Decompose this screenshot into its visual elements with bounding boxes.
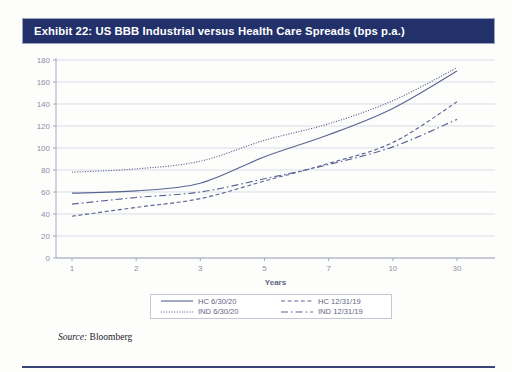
exhibit-page: Exhibit 22: US BBB Industrial versus Hea… [0,0,512,372]
series-line-hc-6-30-20 [72,71,457,193]
series-lines [72,68,457,217]
y-axis-tick-labels: 020406080100120140160180 [37,56,51,263]
line-solid-icon [161,297,193,305]
exhibit-title-bar: Exhibit 22: US BBB Industrial versus Hea… [22,18,495,44]
legend-item[interactable]: HC 6/30/20 [151,297,271,306]
source-label: Source: [58,332,87,342]
y-tick-label: 20 [41,232,50,241]
legend-item[interactable]: HC 12/31/19 [271,297,391,306]
x-axis-tick-labels: 123571030 [70,264,462,273]
legend-label: HC 12/31/19 [318,297,361,306]
series-line-hc-12-31-19 [72,102,457,216]
y-tick-label: 80 [41,166,50,175]
x-tick-label: 10 [388,264,397,273]
x-tick-label: 5 [262,264,267,273]
source-note: Source: Bloomberg [58,332,132,342]
y-tick-label: 180 [37,56,51,65]
line-chart: 020406080100120140160180 123571030 Years [22,50,495,290]
legend-item[interactable]: IND 6/30/20 [151,307,271,316]
chart-legend: HC 6/30/20HC 12/31/19IND 6/30/20IND 12/3… [150,294,392,319]
source-value: Bloomberg [90,332,133,342]
legend-label: IND 6/30/20 [198,307,239,316]
y-tick-label: 0 [46,254,51,263]
line-dashdot-icon [281,308,313,316]
line-dashed-icon [281,297,313,305]
x-axis-title: Years [265,278,287,287]
x-tick-label: 7 [326,264,331,273]
legend-item[interactable]: IND 12/31/19 [271,307,391,316]
x-tick-label: 3 [198,264,203,273]
footer-divider [22,366,495,368]
x-tick-label: 1 [70,264,75,273]
x-tick-label: 30 [453,264,462,273]
page-title: Exhibit 22: US BBB Industrial versus Hea… [23,25,405,37]
y-tick-label: 60 [41,188,50,197]
y-tick-label: 120 [37,122,51,131]
y-tick-label: 160 [37,78,51,87]
legend-label: IND 12/31/19 [318,307,363,316]
chart-plot-area: 020406080100120140160180 123571030 Years [22,50,495,290]
y-tick-label: 40 [41,210,50,219]
y-tick-label: 140 [37,100,51,109]
legend-label: HC 6/30/20 [198,297,236,306]
x-tick-label: 2 [134,264,139,273]
line-dotted-icon [161,308,193,316]
y-tick-label: 100 [37,144,51,153]
